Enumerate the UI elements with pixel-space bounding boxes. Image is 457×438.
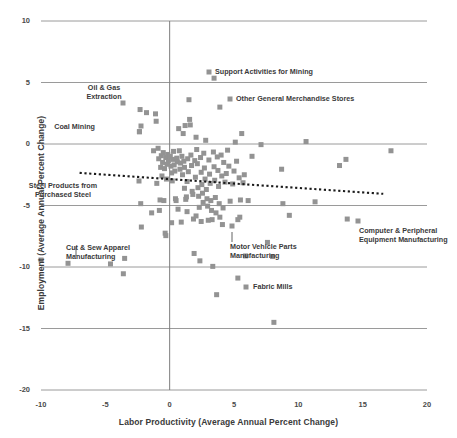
data-point — [220, 222, 225, 227]
data-point — [203, 138, 208, 143]
data-point — [345, 217, 350, 222]
y-tick-label: -20 — [4, 385, 30, 394]
data-point — [221, 205, 226, 210]
data-point — [204, 187, 209, 192]
data-point — [163, 233, 168, 238]
data-point — [224, 171, 229, 176]
data-point — [287, 213, 292, 218]
data-point — [213, 195, 218, 200]
data-point — [183, 123, 188, 128]
data-point — [199, 182, 204, 187]
annotation-label: Computer & Peripheral Equipment Manufact… — [359, 227, 448, 245]
x-tick-label: 5 — [219, 400, 249, 409]
data-point — [177, 167, 182, 172]
data-point — [154, 119, 159, 124]
data-point — [214, 292, 219, 297]
data-point — [179, 154, 184, 159]
data-point — [176, 207, 181, 212]
data-point-markers — [66, 76, 394, 325]
data-point — [188, 153, 193, 158]
data-point — [160, 160, 165, 165]
data-point — [219, 153, 224, 158]
data-point — [237, 175, 242, 180]
x-tick-label: 0 — [155, 400, 185, 409]
data-point — [180, 172, 185, 177]
data-point — [207, 172, 212, 177]
y-axis-title: Employment (Average Annual Percent Chang… — [36, 68, 46, 358]
annotation-marker — [356, 219, 361, 224]
y-tick-label: 5 — [4, 78, 30, 87]
data-point — [108, 261, 113, 266]
data-point — [304, 139, 309, 144]
data-point — [313, 199, 318, 204]
data-point — [228, 199, 233, 204]
annotation-marker — [228, 97, 233, 102]
data-point — [221, 160, 226, 165]
data-point — [246, 198, 251, 203]
annotation-label: Cut & Sew Apparel Manufacturing — [66, 244, 130, 262]
data-point — [149, 210, 154, 215]
data-point — [205, 204, 210, 209]
data-point — [226, 164, 231, 169]
annotation-label: Support Activities for Mining — [215, 68, 313, 77]
data-point — [184, 194, 189, 199]
data-point — [179, 220, 184, 225]
data-point — [138, 201, 143, 206]
data-point — [187, 117, 192, 122]
x-axis-title: Labor Productivity (Average Annual Perce… — [0, 417, 457, 427]
data-point — [176, 126, 181, 131]
data-point — [217, 105, 222, 110]
data-point — [235, 276, 240, 281]
annotation-marker — [137, 179, 142, 184]
data-point — [233, 140, 238, 145]
annotation-marker — [207, 70, 212, 75]
scatter-chart: Employment (Average Annual Percent Chang… — [0, 0, 457, 438]
data-point — [153, 111, 158, 116]
data-point — [194, 147, 199, 152]
data-point — [197, 205, 202, 210]
data-point — [199, 170, 204, 175]
data-point — [239, 131, 244, 136]
data-point — [186, 169, 191, 174]
data-point — [210, 217, 215, 222]
annotation-marker — [230, 224, 235, 229]
data-point — [206, 157, 211, 162]
data-point — [186, 97, 191, 102]
data-point — [172, 169, 177, 174]
data-point — [217, 201, 222, 206]
data-point — [213, 210, 218, 215]
data-point — [219, 173, 224, 178]
data-point — [199, 219, 204, 224]
data-point — [337, 163, 342, 168]
data-point — [217, 215, 222, 220]
x-tick-label: -10 — [26, 400, 56, 409]
data-point — [343, 157, 348, 162]
data-point — [174, 198, 179, 203]
annotation-label: Motor Vehicle Parts Manufacturing — [230, 243, 297, 261]
y-tick-label: 10 — [4, 16, 30, 25]
data-point — [208, 198, 213, 203]
data-point — [194, 213, 199, 218]
data-point — [197, 258, 202, 263]
data-point — [161, 150, 166, 155]
data-point — [234, 159, 239, 164]
data-point — [216, 184, 221, 189]
plot-area — [0, 0, 457, 438]
data-point — [232, 169, 237, 174]
data-point — [193, 175, 198, 180]
data-point — [144, 110, 149, 115]
data-point — [137, 129, 142, 134]
x-tick-label: -5 — [90, 400, 120, 409]
data-point — [237, 215, 242, 220]
data-point — [121, 271, 126, 276]
data-point — [202, 165, 207, 170]
data-point — [156, 146, 161, 151]
data-point — [161, 198, 166, 203]
annotation-label: Oil & Gas Extraction — [86, 84, 121, 102]
annotation-marker — [244, 285, 249, 290]
data-point — [194, 135, 199, 140]
data-point — [139, 225, 144, 230]
x-tick-label: 20 — [412, 400, 442, 409]
annotation-label: Fabric Mills — [253, 283, 293, 292]
data-point — [162, 166, 167, 171]
